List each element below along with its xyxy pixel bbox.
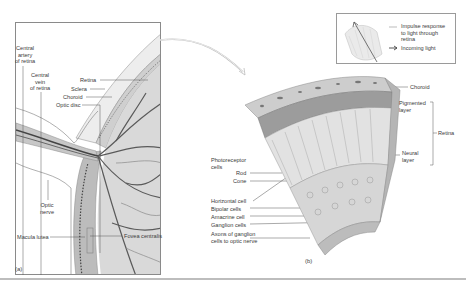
legend-line: to light through xyxy=(401,30,445,37)
legend-item-incoming-light: Incoming light xyxy=(401,45,436,52)
legend-line: Impulse response xyxy=(401,23,445,30)
label-neural-layer: Neural layer xyxy=(402,150,418,163)
label-rod: Rod xyxy=(236,170,246,177)
bottom-rule xyxy=(0,278,466,280)
label-bipolar-cells: Bipolar cells xyxy=(211,206,241,213)
caption-b: (b) xyxy=(305,258,312,264)
label-line: Photoreceptor xyxy=(211,157,246,164)
label-ganglion-cells: Ganglion cells xyxy=(211,222,246,229)
label-retina-b: Retina xyxy=(438,130,454,137)
label-line: Pigmented xyxy=(399,100,426,107)
legend-item-impulse: Impulse response to light through retina xyxy=(401,23,445,43)
label-line: cells to optic nerve xyxy=(211,238,257,245)
label-line: Axons of ganglion xyxy=(211,231,257,238)
label-cone: Cone xyxy=(233,178,246,185)
retina-figure: Central artery of retina Central vein of… xyxy=(0,0,466,289)
label-line: layer xyxy=(399,107,426,114)
label-line: layer xyxy=(402,157,418,164)
label-axons-ganglion: Axons of ganglion cells to optic nerve xyxy=(211,231,257,244)
legend: Impulse response to light through retina… xyxy=(336,13,456,64)
label-line: Neural xyxy=(402,150,418,157)
label-choroid-b: Choroid xyxy=(410,84,430,91)
label-amacrine-cell: Amacrine cell xyxy=(211,214,245,221)
label-photoreceptor-cells: Photoreceptor cells xyxy=(211,157,246,170)
label-pigmented-layer: Pigmented layer xyxy=(399,100,426,113)
label-horizontal-cell: Horizontal cell xyxy=(211,198,246,205)
legend-line: retina xyxy=(401,36,445,43)
